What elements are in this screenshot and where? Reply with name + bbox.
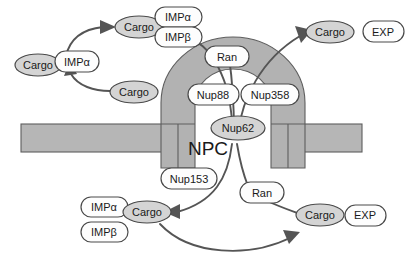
npc-transport-diagram: NPC Cargo (0, 0, 411, 264)
node-ran-nucleoplasmic-label: Ran (252, 187, 272, 199)
node-impb-complex-label: IMPβ (165, 31, 191, 43)
node-nup88-label: Nup88 (197, 89, 229, 101)
node-cargo-free[interactable]: Cargo (15, 54, 61, 76)
node-exp-cytoplasmic[interactable]: EXP (363, 21, 404, 42)
node-impa-receptor-label: IMPα (64, 56, 91, 68)
node-impa-free-label: IMPα (91, 201, 118, 213)
node-nup62[interactable]: Nup62 (211, 116, 265, 140)
node-exp-nucleoplasmic[interactable]: EXP (345, 205, 386, 226)
node-cargo-recycled[interactable]: Cargo (110, 81, 158, 103)
node-cargo-loaded-label: Cargo (124, 21, 154, 33)
node-nup153[interactable]: Nup153 (161, 168, 217, 189)
node-ran-nucleoplasmic[interactable]: Ran (240, 182, 284, 203)
node-ran-cytoplasmic-label: Ran (217, 51, 237, 63)
node-cargo-delivered[interactable]: Cargo (123, 201, 171, 223)
node-cargo-released-label: Cargo (315, 26, 345, 38)
node-impa-complex-label: IMPα (165, 11, 192, 23)
node-nup358[interactable]: Nup358 (241, 84, 299, 105)
node-cargo-recycled-label: Cargo (119, 86, 149, 98)
node-cargo-export-loaded-label: Cargo (305, 209, 335, 221)
npc-label: NPC (188, 138, 228, 159)
node-impa-receptor[interactable]: IMPα (55, 51, 99, 72)
node-nup88[interactable]: Nup88 (188, 84, 239, 105)
node-impb-free[interactable]: IMPβ (81, 222, 128, 242)
diagram-canvas: NPC Cargo (0, 0, 411, 264)
node-impb-complex[interactable]: IMPβ (155, 27, 202, 47)
node-cargo-export-loaded[interactable]: Cargo (296, 204, 344, 226)
node-nup62-label: Nup62 (222, 122, 254, 134)
node-cargo-delivered-label: Cargo (132, 206, 162, 218)
node-nup358-label: Nup358 (251, 89, 290, 101)
node-impb-free-label: IMPβ (91, 226, 117, 238)
node-exp-nucleoplasmic-label: EXP (354, 209, 376, 221)
membrane-left-segment (21, 124, 173, 152)
node-cargo-free-label: Cargo (23, 59, 53, 71)
node-impa-complex[interactable]: IMPα (155, 7, 202, 27)
node-ran-cytoplasmic[interactable]: Ran (205, 46, 249, 67)
node-impa-free[interactable]: IMPα (81, 197, 128, 217)
node-cargo-released[interactable]: Cargo (306, 21, 354, 43)
node-exp-cytoplasmic-label: EXP (372, 26, 394, 38)
node-nup153-label: Nup153 (170, 173, 209, 185)
